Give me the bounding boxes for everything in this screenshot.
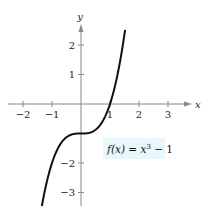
equation-suffix: − 1 xyxy=(151,143,173,155)
ticks: −2−1123−3−212 xyxy=(16,40,172,199)
x-axis-arrow-icon xyxy=(184,102,192,107)
x-tick-label: 3 xyxy=(165,109,171,120)
x-axis-label: x xyxy=(195,99,201,110)
y-axis-label: y xyxy=(76,11,83,22)
y-tick-label: −2 xyxy=(60,158,75,169)
y-tick-label: −3 xyxy=(60,187,75,198)
y-tick-label: 1 xyxy=(69,69,75,80)
x-tick-label: 2 xyxy=(136,109,142,120)
equation-prefix: f(x) = x xyxy=(106,143,146,155)
equation-label: f(x) = x3 − 1 xyxy=(106,143,173,155)
y-tick-label: 2 xyxy=(69,40,75,51)
x-tick-label: −2 xyxy=(16,109,31,120)
y-axis-arrow-icon xyxy=(79,24,84,32)
function-graph: −2−1123−3−212 x y f(x) = x3 − 1 xyxy=(0,0,210,215)
x-tick-label: −1 xyxy=(45,109,60,120)
